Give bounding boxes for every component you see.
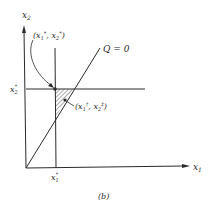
y-axis: [22, 25, 26, 168]
tick-label-x1-star: x1*: [51, 171, 59, 183]
tick-label-x2-star: x2*: [10, 83, 18, 95]
curve-label-q-zero: Q = 0: [103, 44, 130, 54]
y-axis-label: x2: [22, 10, 31, 21]
x-axis-arrow-icon: [182, 164, 190, 168]
x-axis: [26, 164, 190, 168]
dagger-pointer: [66, 101, 74, 106]
x-axis-label: x1: [193, 162, 202, 173]
point-dagger-label: (x1†, x2‡): [75, 101, 107, 112]
point-star-label: (x1*, x2*): [33, 30, 65, 41]
y-axis-arrow-icon: [22, 25, 26, 33]
vertical-line-x1-star: [55, 48, 56, 168]
figure-caption: (b): [98, 192, 109, 201]
curved-arrow-icon: [31, 40, 52, 86]
constraint-diagram: x2 x1 Q = 0 (x1*, x2*) (x1†, x2‡) x2* x1…: [0, 0, 212, 206]
